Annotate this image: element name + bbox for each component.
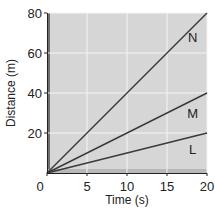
y-tick-label: 80: [28, 6, 42, 21]
series-label-m: M: [187, 106, 198, 121]
series-label-l: L: [189, 142, 196, 157]
series-label-n: N: [188, 30, 197, 45]
x-axis-title: Time (s): [105, 193, 149, 207]
y-tick-label: 20: [28, 126, 42, 141]
y-axis-title: Distance (m): [4, 59, 18, 127]
y-tick-label: 40: [28, 86, 42, 101]
x-tick-label: 20: [200, 179, 214, 194]
x-tick-label: 10: [120, 179, 134, 194]
y-tick-label: 60: [28, 46, 42, 61]
distance-time-chart: NML 0510152020406080 Time (s) Distance (…: [0, 0, 215, 215]
x-tick-label: 15: [160, 179, 174, 194]
x-tick-label: 0: [36, 179, 43, 194]
x-tick-label: 5: [83, 179, 90, 194]
